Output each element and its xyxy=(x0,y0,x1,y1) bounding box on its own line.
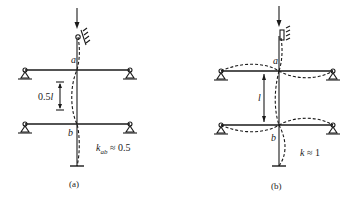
joint-label-b: b xyxy=(68,128,73,138)
dimension-l xyxy=(262,74,266,122)
dimension-label: l xyxy=(258,93,261,103)
load-arrow-icon xyxy=(75,8,80,29)
joint-label-a: a xyxy=(273,56,278,66)
joint-label-a: a xyxy=(71,55,76,65)
joint-label-b: b xyxy=(271,133,276,143)
caption-b: (b) xyxy=(271,182,282,191)
load-arrow-icon xyxy=(277,6,282,27)
panel-b xyxy=(214,6,340,166)
top-support-icon xyxy=(280,26,290,40)
top-support-icon xyxy=(76,28,90,45)
k-label-a: kab ≈ 0.5 xyxy=(96,143,130,156)
dimension-0.5l xyxy=(56,82,64,110)
effective-length-diagram xyxy=(0,0,357,200)
dimension-label: 0.5l xyxy=(38,92,53,102)
k-label-b: k ≈ 1 xyxy=(300,148,320,158)
caption-a: (a) xyxy=(69,180,79,189)
